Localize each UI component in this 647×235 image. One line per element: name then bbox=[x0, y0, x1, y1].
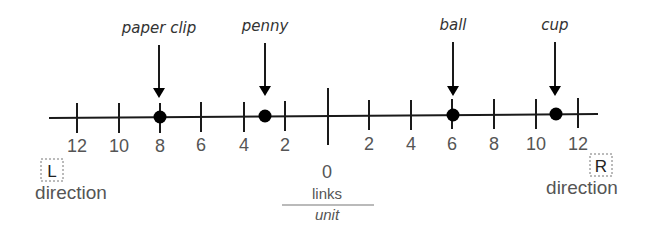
point-dot bbox=[259, 110, 272, 123]
arrow-down-icon bbox=[259, 86, 271, 96]
tick-label: 12 bbox=[568, 134, 588, 154]
object-penny: penny bbox=[241, 17, 290, 123]
object-label: ball bbox=[439, 16, 467, 34]
number-line-diagram: 12 10 8 6 4 2 2 4 6 8 10 12 0 links unit… bbox=[0, 0, 647, 235]
arrow-down-icon bbox=[447, 86, 459, 96]
right-direction-label: direction bbox=[546, 177, 618, 198]
point-dot bbox=[447, 109, 460, 122]
zero-unit: 0 links unit bbox=[282, 162, 374, 223]
tick-label: 2 bbox=[280, 135, 290, 155]
zero-label: 0 bbox=[322, 162, 332, 182]
object-label: cup bbox=[541, 16, 568, 34]
object-ball: ball bbox=[439, 16, 467, 122]
arrow-down-icon bbox=[153, 88, 165, 98]
object-cup: cup bbox=[541, 16, 568, 121]
point-dot bbox=[154, 111, 167, 124]
tick-labels-right: 2 4 6 8 10 12 bbox=[364, 134, 588, 154]
tick-labels-left: 12 10 8 6 4 2 bbox=[67, 135, 290, 156]
tick-label: 4 bbox=[239, 135, 249, 155]
object-label: penny bbox=[241, 17, 290, 35]
number-line bbox=[49, 114, 598, 118]
unit-numerator: links bbox=[312, 185, 342, 202]
arrow-down-icon bbox=[549, 86, 561, 96]
axis bbox=[49, 88, 598, 145]
unit-denominator: unit bbox=[315, 206, 340, 223]
object-paper-clip: paper clip bbox=[121, 19, 197, 124]
tick-label: 8 bbox=[155, 136, 165, 156]
left-direction-label: direction bbox=[35, 182, 107, 203]
right-letter: R bbox=[595, 157, 607, 176]
left-direction: L direction bbox=[35, 159, 107, 203]
tick-label: 12 bbox=[67, 136, 87, 156]
tick-label: 2 bbox=[364, 134, 374, 154]
right-direction: R direction bbox=[546, 154, 618, 198]
tick-label: 10 bbox=[109, 136, 129, 156]
point-dot bbox=[550, 108, 563, 121]
tick-label: 6 bbox=[447, 134, 457, 154]
tick-label: 8 bbox=[489, 134, 499, 154]
left-letter: L bbox=[47, 162, 56, 181]
object-label: paper clip bbox=[121, 19, 197, 37]
tick-label: 6 bbox=[196, 135, 206, 155]
tick-label: 10 bbox=[526, 134, 546, 154]
tick-label: 4 bbox=[406, 134, 416, 154]
